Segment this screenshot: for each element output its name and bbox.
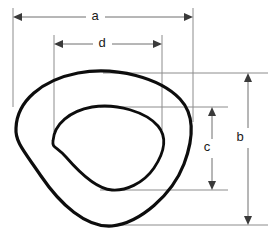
- dimension-label-c: c: [204, 139, 211, 154]
- dimension-b-arrow-top: [244, 73, 252, 82]
- outer-profile-outline: [16, 71, 191, 226]
- dimension-a-arrow-right: [184, 13, 193, 21]
- dimension-d-arrow-left: [54, 40, 63, 48]
- dimension-label-d: d: [98, 35, 105, 50]
- dimension-label-a: a: [91, 8, 99, 23]
- dimension-b-arrow-bottom: [244, 216, 252, 225]
- dimension-c: c: [204, 107, 216, 190]
- extension-lines-group: [13, 8, 268, 225]
- dimension-d-arrow-right: [153, 40, 162, 48]
- diagram-canvas: a d b c: [0, 0, 274, 237]
- dimension-c-arrow-top: [208, 107, 216, 116]
- dimension-label-b: b: [236, 129, 243, 144]
- technical-dimension-diagram: a d b c: [0, 0, 274, 237]
- dimension-b: b: [236, 73, 252, 225]
- dimension-c-arrow-bottom: [208, 181, 216, 190]
- dimension-a: a: [13, 8, 193, 23]
- inner-profile-outline: [53, 106, 164, 190]
- dimension-d: d: [54, 35, 162, 50]
- dimension-a-arrow-left: [13, 13, 22, 21]
